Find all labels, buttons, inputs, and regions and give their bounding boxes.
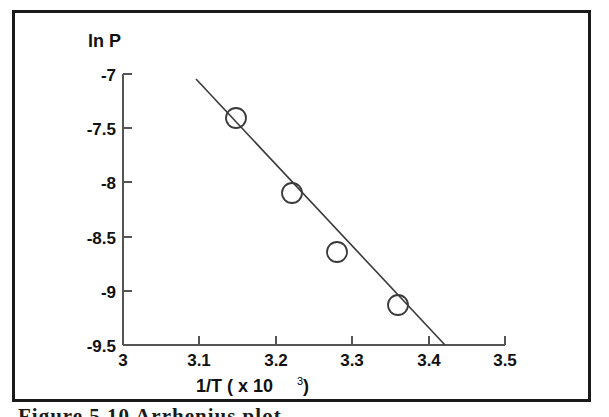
x-tick-label-2: 3.2	[264, 351, 288, 370]
data-point-marker	[226, 108, 246, 128]
y-tick-label-2: -8	[101, 174, 116, 193]
y-tick-label-4: -9	[101, 283, 116, 302]
y-tick-label-3: -8.5	[87, 229, 116, 248]
x-tick-label-3: 3.3	[340, 351, 364, 370]
y-axis-ticks	[123, 74, 132, 345]
figure-root: -7 -7.5 -8 -8.5 -9 -9.5 3 3.1 3.2 3.3 3.…	[0, 0, 609, 417]
x-tick-label-4: 3.4	[417, 351, 441, 370]
x-tick-label-5: 3.5	[493, 351, 517, 370]
plot-area: -7 -7.5 -8 -8.5 -9 -9.5 3 3.1 3.2 3.3 3.…	[0, 0, 609, 417]
arrhenius-plot-svg: -7 -7.5 -8 -8.5 -9 -9.5 3 3.1 3.2 3.3 3.…	[0, 0, 609, 417]
y-axis-title: ln P	[88, 31, 121, 51]
data-point-marker	[282, 183, 302, 203]
data-point-marker	[388, 295, 408, 315]
x-tick-label-1: 3.1	[187, 351, 211, 370]
y-tick-label-1: -7.5	[87, 120, 116, 139]
data-point-marker	[327, 242, 347, 262]
x-tick-label-0: 3	[118, 351, 127, 370]
clipped-caption-text: Figure 5.10 Arrhenius plot	[18, 404, 578, 417]
x-axis-title: 1/T ( x 10 3 )	[196, 375, 309, 396]
x-axis-title-main: 1/T ( x 10	[196, 376, 273, 396]
y-tick-label-5: -9.5	[87, 337, 116, 356]
y-tick-label-0: -7	[101, 66, 116, 85]
x-axis-ticks	[123, 336, 505, 345]
x-axis-title-close: )	[303, 376, 309, 396]
